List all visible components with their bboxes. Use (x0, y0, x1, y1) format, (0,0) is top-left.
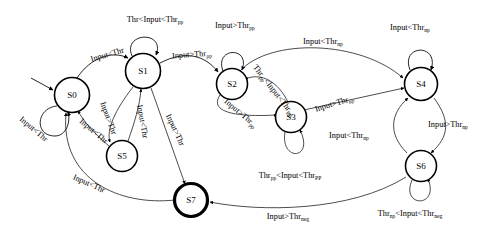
lbl-s3-s2: Thrpp<Input<ThrPP (250, 63, 296, 119)
state-node-s0[interactable]: S0 (55, 78, 90, 113)
initial-arrow (31, 78, 53, 90)
lbl-s6-s7: Input>Thrneg (267, 212, 309, 222)
edge-s6-to-s4 (394, 98, 408, 153)
state-node-s6[interactable]: S6 (406, 151, 437, 182)
state-label-s1: S1 (138, 66, 148, 76)
lbl-s1-s7: Input>Thr (164, 113, 187, 148)
state-machine-diagram: S0 S1 S2 S3 S4 S5 S6 S7 Thr<Input<ThrppI… (0, 0, 482, 238)
edge-label-group: Thr<Input<ThrppInput>ThrppInput<ThrnpInp… (18, 15, 468, 222)
lbl-s0-s1: Input<Thr (90, 45, 126, 63)
edge-s6-to-s7 (210, 177, 406, 208)
lbl-s6-s4: Input<Thrnp (329, 131, 369, 141)
state-label-s7: S7 (186, 195, 196, 205)
lbl-s1-s2: Input>Thrpp (172, 49, 213, 62)
edge-s2-to-s4 (240, 48, 403, 78)
edge-s6-self (410, 179, 431, 201)
state-label-s4: S4 (416, 79, 426, 89)
state-node-s7[interactable]: S7 (175, 184, 208, 217)
lbl-s3-self: Thrpp<Input<ThrPP (259, 171, 322, 181)
state-node-s1[interactable]: S1 (126, 54, 161, 89)
state-node-s4[interactable]: S4 (405, 68, 438, 101)
lbl-s5-s1: Input<Thr (135, 104, 150, 139)
lbl-s7-s0: Input<Thr (72, 173, 107, 195)
state-label-s5: S5 (117, 151, 127, 161)
lbl-s3-s4: Input>Thrnp (314, 93, 355, 114)
state-label-s0: S0 (67, 90, 77, 100)
lbl-s6-self: Thrnp<Input<Thrneg (378, 209, 443, 219)
state-label-s6: S6 (416, 161, 426, 171)
lbl-s4-s6: Input>Thrnp (428, 120, 468, 130)
edge-s3-self (285, 130, 304, 154)
lbl-s2-s4: Input<Thrnp (303, 37, 343, 47)
lbl-s0-self: Input<Thr (18, 115, 50, 144)
lbl-s1-self: Thr<Input<Thrpp (127, 15, 184, 25)
state-node-s5[interactable]: S5 (107, 141, 138, 172)
state-node-s2[interactable]: S2 (217, 69, 248, 100)
lbl-s2-s3: Input>Thrpp (222, 97, 259, 130)
state-label-s2: S2 (227, 79, 237, 89)
lbl-s2-self: Input>Thrpp (215, 21, 255, 31)
lbl-s4-self: Input<Thrnp (390, 23, 430, 33)
